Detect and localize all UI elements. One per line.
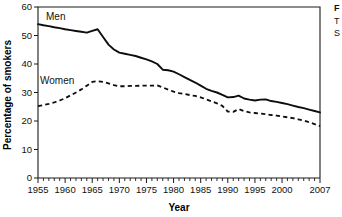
x-tick-label: 1990 [217, 184, 238, 195]
y-tick-label: 60 [21, 1, 32, 12]
data-series-group [38, 24, 320, 126]
y-tick-label: 50 [21, 30, 32, 41]
series-line-women [38, 81, 320, 126]
y-axis-tick-labels: 0102030405060 [21, 1, 32, 183]
x-tick-label: 1965 [82, 184, 103, 195]
side-note-title: F [334, 3, 342, 13]
series-label-men: Men [46, 11, 65, 22]
x-axis-ticks [38, 178, 320, 183]
y-tick-label: 20 [21, 115, 32, 126]
x-tick-label: 1975 [136, 184, 157, 195]
side-note-line-1: T [334, 16, 342, 26]
x-axis-tick-labels: 1955196019651970197519801985199019952000… [27, 184, 330, 195]
series-line-men [38, 24, 320, 112]
y-tick-label: 0 [27, 172, 32, 183]
smoking-prevalence-chart: 0102030405060 19551960196519701975198019… [0, 0, 342, 217]
y-tick-label: 40 [21, 58, 32, 69]
x-tick-label: 1995 [244, 184, 265, 195]
side-note-line-2: S [334, 28, 342, 38]
y-tick-label: 10 [21, 144, 32, 155]
series-label-women: Women [40, 75, 74, 86]
x-axis-title: Year [168, 202, 189, 213]
series-annotations: MenWomen [40, 11, 74, 86]
x-tick-label: 1980 [163, 184, 184, 195]
x-tick-label: 2007 [309, 184, 330, 195]
x-tick-label: 1985 [190, 184, 211, 195]
x-tick-label: 1955 [27, 184, 48, 195]
x-tick-label: 1960 [55, 184, 76, 195]
y-axis-ticks [34, 7, 38, 178]
y-tick-label: 30 [21, 87, 32, 98]
chart-canvas: 0102030405060 19551960196519701975198019… [0, 0, 342, 217]
x-tick-label: 1970 [109, 184, 130, 195]
x-tick-label: 2000 [271, 184, 292, 195]
y-axis-title: Percentage of smokers [2, 40, 13, 150]
